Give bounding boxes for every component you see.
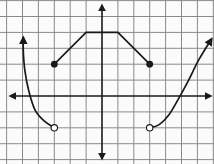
middle-piecewise-start-closed-point [51,61,58,68]
right-curve-start-open-point [147,125,153,131]
middle-piecewise-end-closed-point [146,61,153,68]
left-curve-start-open-point [51,125,57,131]
graph [0,0,214,164]
